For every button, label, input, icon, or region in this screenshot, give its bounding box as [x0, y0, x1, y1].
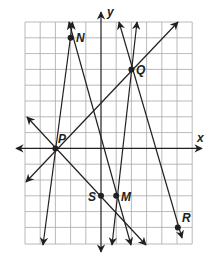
label-n: N	[76, 31, 85, 45]
point-n	[68, 35, 74, 41]
y-axis-label: y	[106, 5, 115, 19]
coordinate-plane: x y N Q P S M R	[0, 0, 215, 262]
grid	[25, 22, 192, 244]
point-p	[52, 145, 58, 151]
label-m: M	[121, 190, 132, 204]
line-qr	[119, 22, 182, 238]
point-s	[98, 193, 104, 199]
point-r	[175, 224, 181, 230]
point-m	[113, 193, 119, 199]
line-pq	[26, 22, 178, 182]
x-axis-label: x	[196, 131, 205, 145]
label-p: P	[58, 132, 67, 146]
axes	[16, 12, 202, 252]
line-ps	[27, 117, 146, 245]
label-s: S	[88, 190, 96, 204]
point-q	[128, 66, 134, 72]
label-q: Q	[136, 63, 146, 77]
label-r: R	[182, 211, 191, 225]
